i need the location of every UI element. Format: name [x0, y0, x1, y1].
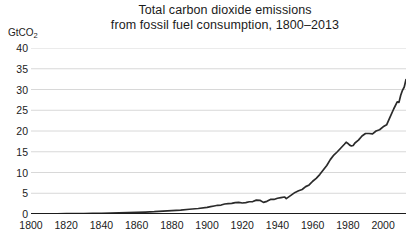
emissions-line-chart — [31, 48, 406, 214]
x-axis-tick-label: 1980 — [336, 219, 359, 231]
x-axis-tick-label: 1960 — [301, 219, 324, 231]
x-axis-tick-label: 1840 — [90, 219, 113, 231]
x-axis-tick-label: 1800 — [19, 219, 42, 231]
x-axis-tick-label: 2000 — [371, 219, 394, 231]
plot-area — [31, 48, 406, 214]
x-axis-tick-label: 1900 — [195, 219, 218, 231]
x-axis-tick-label: 1880 — [160, 219, 183, 231]
x-axis-tick-label: 1820 — [55, 219, 78, 231]
gridlines — [31, 48, 406, 193]
x-axis-tick-label: 1940 — [266, 219, 289, 231]
chart-figure: Total carbon dioxide emissions from foss… — [0, 0, 410, 250]
x-axis-tick-label: 1860 — [125, 219, 148, 231]
x-axis-tick-label: 1920 — [231, 219, 254, 231]
